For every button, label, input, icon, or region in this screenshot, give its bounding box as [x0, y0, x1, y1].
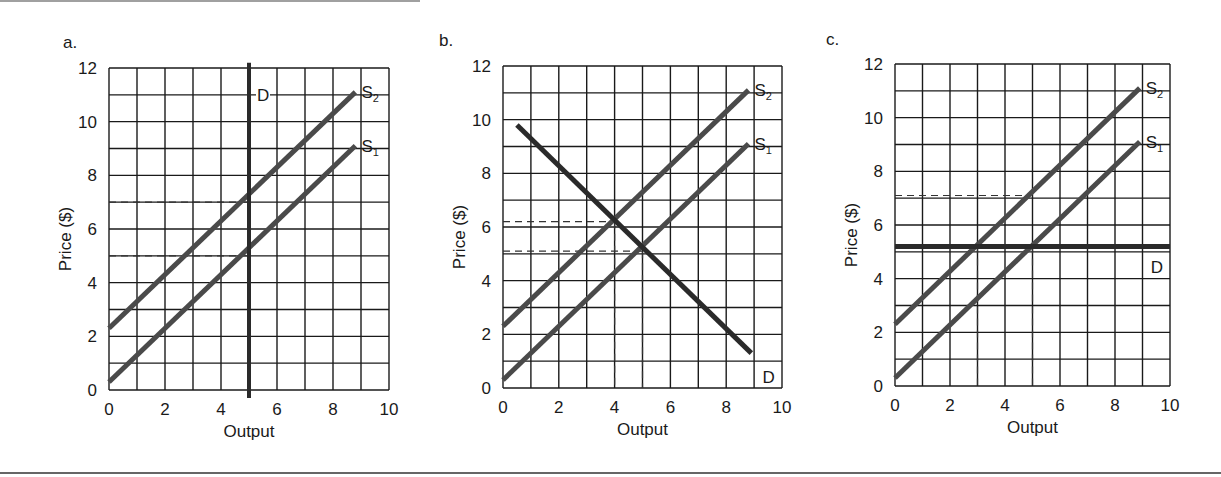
x-tick-label: 10: [773, 398, 792, 417]
x-tick-label: 4: [610, 398, 619, 417]
x-tick-label: 4: [216, 400, 225, 419]
x-axis-title: Output: [223, 422, 274, 441]
x-tick-label: 4: [1000, 396, 1009, 415]
y-tick-label: 0: [482, 379, 491, 398]
curve-label-s1: S1: [361, 137, 378, 158]
chart-panel-c: c.S1S2D0246810120246810OutputPrice ($): [826, 30, 1179, 437]
y-axis-title: Price ($): [56, 207, 75, 271]
x-tick-label: 8: [328, 400, 337, 419]
curve-label-s2: S2: [361, 83, 378, 104]
x-tick-label: 10: [380, 400, 399, 419]
y-tick-label: 8: [874, 162, 883, 181]
supply-curve-s2: [895, 88, 1140, 324]
y-axis-title: Price ($): [842, 203, 861, 267]
x-tick-label: 2: [945, 396, 954, 415]
y-tick-label: 4: [874, 270, 883, 289]
panel-label: c.: [826, 30, 839, 49]
panel-label: b.: [439, 31, 453, 50]
y-tick-label: 12: [472, 57, 491, 76]
x-tick-label: 0: [890, 396, 899, 415]
demand-curve: [517, 125, 751, 353]
x-tick-label: 10: [1161, 396, 1180, 415]
supply-demand-figure: a.S1S2D0246810120246810OutputPrice ($) b…: [0, 0, 1221, 477]
curve-label-s1: S1: [1146, 133, 1163, 154]
curve-label-d: D: [1151, 258, 1163, 277]
curve-label-s2: S2: [755, 81, 772, 102]
x-tick-label: 8: [721, 398, 730, 417]
y-tick-label: 10: [472, 111, 491, 130]
y-tick-label: 2: [874, 323, 883, 342]
x-tick-label: 2: [554, 398, 563, 417]
curve-label-s1: S1: [755, 135, 772, 156]
x-tick-label: 0: [498, 398, 507, 417]
x-tick-label: 6: [272, 400, 281, 419]
supply-curve-s2: [109, 92, 355, 328]
y-tick-label: 10: [864, 109, 883, 128]
y-tick-label: 12: [864, 55, 883, 74]
y-tick-label: 4: [88, 274, 97, 293]
curve-label-d: D: [762, 368, 774, 387]
x-tick-label: 2: [160, 400, 169, 419]
y-axis-title: Price ($): [450, 205, 469, 269]
supply-curve-s1: [109, 146, 355, 382]
y-tick-label: 10: [78, 113, 97, 132]
y-tick-label: 4: [482, 272, 491, 291]
y-tick-label: 0: [88, 381, 97, 400]
curve-label-s2: S2: [1146, 79, 1163, 100]
panel-label: a.: [63, 33, 77, 52]
y-tick-label: 12: [78, 59, 97, 78]
x-tick-label: 0: [104, 400, 113, 419]
y-tick-label: 8: [88, 166, 97, 185]
chart-panel-a: a.S1S2D0246810120246810OutputPrice ($): [56, 33, 398, 441]
x-tick-label: 6: [1055, 396, 1064, 415]
curve-label-d: D: [257, 86, 269, 105]
y-tick-label: 0: [874, 377, 883, 396]
y-tick-label: 2: [88, 327, 97, 346]
y-tick-label: 6: [874, 216, 883, 235]
y-tick-label: 6: [88, 220, 97, 239]
x-tick-label: 6: [666, 398, 675, 417]
supply-curve-s2: [503, 90, 749, 326]
y-tick-label: 6: [482, 218, 491, 237]
x-axis-title: Output: [617, 420, 668, 439]
supply-curve-s1: [895, 142, 1140, 378]
x-tick-label: 8: [1110, 396, 1119, 415]
y-tick-label: 8: [482, 164, 491, 183]
y-tick-label: 2: [482, 325, 491, 344]
supply-curve-s1: [503, 144, 749, 380]
chart-panel-b: b.S1S2D0246810120246810OutputPrice ($): [439, 31, 791, 439]
x-axis-title: Output: [1007, 418, 1058, 437]
